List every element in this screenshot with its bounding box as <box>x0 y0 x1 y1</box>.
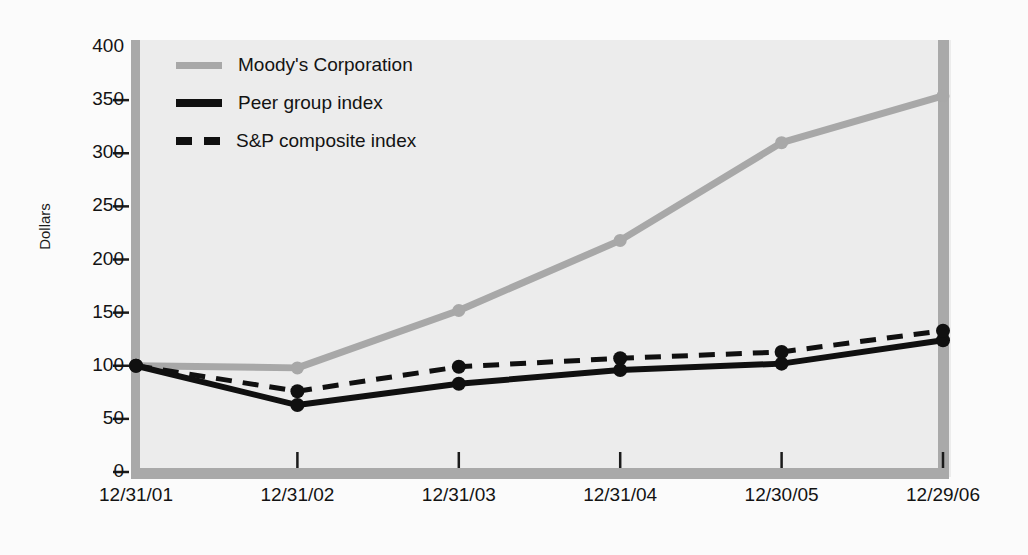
x-tick-label: 12/30/05 <box>702 484 862 506</box>
data-point <box>290 398 304 412</box>
x-tick-label: 12/31/01 <box>56 484 216 506</box>
y-tick-label-text: 50 <box>62 408 124 427</box>
line-gray-solid-icon <box>176 62 222 69</box>
legend-label-moodys: Moody's Corporation <box>238 54 413 76</box>
y-tick-label-text: 300 <box>62 142 124 161</box>
data-point <box>290 384 304 398</box>
legend-label-snp: S&P composite index <box>236 130 416 152</box>
data-point <box>452 377 466 391</box>
y-tick-label-text: 350 <box>62 89 124 108</box>
chart-plot-area <box>0 0 1028 555</box>
data-point <box>937 89 950 102</box>
y-tick-label-text: 200 <box>62 249 124 268</box>
legend-label-peer-group: Peer group index <box>238 92 383 114</box>
data-point <box>129 359 143 373</box>
data-point <box>936 324 950 338</box>
data-point <box>291 361 304 374</box>
x-tick-label: 12/31/04 <box>540 484 700 506</box>
y-axis-bar <box>131 40 140 477</box>
y-tick-label-text: 400 <box>62 36 124 55</box>
chart-legend: Moody's Corporation Peer group index S&P… <box>176 46 416 160</box>
data-point <box>775 345 789 359</box>
legend-item-peer-group: Peer group index <box>176 84 416 122</box>
data-point <box>613 351 627 365</box>
legend-item-moodys: Moody's Corporation <box>176 46 416 84</box>
stock-performance-chart: Dollars 050100150200250300350400 12/31/0… <box>0 0 1028 555</box>
y-tick-label-text: 0 <box>62 461 124 480</box>
line-black-solid-icon <box>176 99 222 107</box>
y-tick-label-text: 100 <box>62 355 124 374</box>
x-tick-label: 12/31/02 <box>217 484 377 506</box>
y-tick-label-text: 250 <box>62 195 124 214</box>
data-point <box>452 304 465 317</box>
data-point <box>452 360 466 374</box>
y-axis-title: Dollars <box>36 172 53 282</box>
x-axis-bar <box>131 468 949 479</box>
legend-item-snp: S&P composite index <box>176 122 416 160</box>
x-tick-label: 12/31/03 <box>379 484 539 506</box>
data-point <box>614 234 627 247</box>
data-point <box>775 136 788 149</box>
y-tick-label-text: 150 <box>62 302 124 321</box>
line-black-dashed-icon <box>176 137 220 145</box>
x-tick-label: 12/29/06 <box>863 484 1023 506</box>
right-border-bar <box>938 40 949 477</box>
